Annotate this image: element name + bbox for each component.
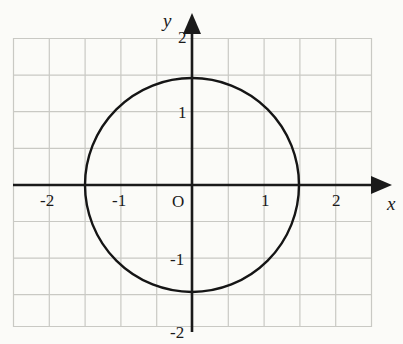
coordinate-plane-svg [0,0,403,344]
x-tick-label-neg2: -2 [40,192,54,209]
y-tick-label-1: 1 [178,104,187,121]
x-tick-label-neg1: -1 [112,192,126,209]
y-tick-label-neg1: -1 [170,251,184,268]
x-axis-label: x [387,194,395,213]
y-tick-label-neg2: -2 [170,324,184,341]
x-tick-label-1: 1 [261,192,270,209]
graph-figure: -2 -1 1 2 2 1 -1 -2 O y x [0,0,403,344]
y-axis [183,13,201,332]
y-tick-label-2: 2 [178,29,187,46]
origin-label: O [172,193,184,210]
y-axis-label: y [163,11,171,30]
x-tick-label-2: 2 [332,192,341,209]
